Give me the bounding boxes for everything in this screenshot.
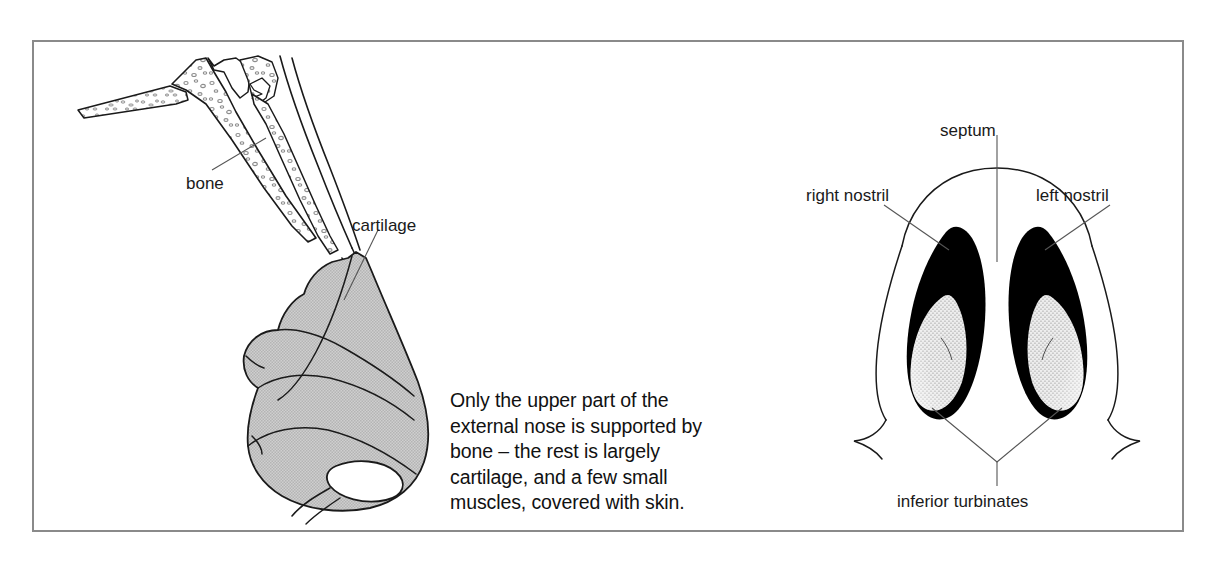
label-right-nostril: right nostril [806,186,889,206]
label-bone: bone [186,174,224,194]
label-left-nostril: left nostril [1036,186,1109,206]
label-inferior-turbinates: inferior turbinates [897,492,1028,512]
left-nostril-shape [1009,227,1088,420]
left-nostril-leader-line [1045,205,1110,250]
caption-line: external nose is supported by [450,414,720,440]
label-cartilage: cartilage [352,216,416,236]
caption-line: bone – the rest is largely [450,439,720,465]
caption-line: muscles, covered with skin. [450,490,720,516]
nasal-bone-strip [78,86,188,118]
figure-caption: Only the upper part of the external nose… [450,388,720,516]
caption-line: Only the upper part of the [450,388,720,414]
inferior-turbinates-leader-line [932,408,1062,486]
nasal-bone-wedge [172,58,316,242]
lateral-nose-skeleton-group [78,56,428,524]
right-nostril-shape [907,227,986,420]
nasal-cartilage-mass [244,252,429,524]
right-nostril-leader-line [884,205,949,250]
caption-line: cartilage, and a few small [450,465,720,491]
label-septum: septum [940,121,996,141]
